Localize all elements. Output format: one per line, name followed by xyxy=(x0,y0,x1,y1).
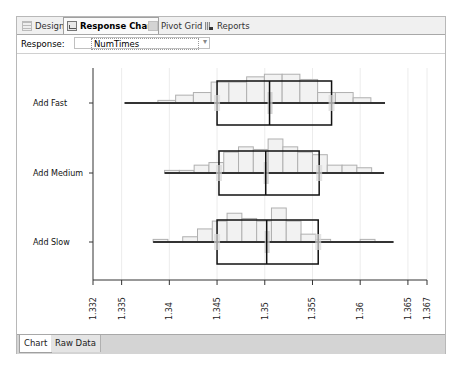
q3-marker xyxy=(329,95,335,111)
x-tick-label: 1.367 xyxy=(423,297,432,320)
histogram-bin xyxy=(298,152,313,173)
histogram-bin xyxy=(327,165,342,173)
q3-marker xyxy=(315,234,321,250)
histogram-bin xyxy=(335,93,353,103)
category-label: Add Fast xyxy=(33,99,67,108)
x-tick-label: 1.34 xyxy=(165,302,174,320)
histogram-bin xyxy=(271,208,286,242)
histogram-bin xyxy=(282,74,300,103)
category-label: Add Slow xyxy=(33,238,70,247)
histogram-bin xyxy=(194,165,209,173)
histogram-bin xyxy=(224,152,239,173)
histogram-bin xyxy=(286,221,301,242)
q1-marker xyxy=(214,234,220,250)
histogram-bin xyxy=(342,165,357,173)
histogram-bin xyxy=(176,95,194,103)
x-tick-label: 1.345 xyxy=(213,297,222,320)
histogram-bin xyxy=(301,234,316,242)
q3-marker xyxy=(316,165,322,181)
histogram-bin xyxy=(193,93,211,103)
category-label: Add Medium xyxy=(33,169,83,178)
category-labels: Add FastAdd MediumAdd Slow xyxy=(33,99,83,247)
histogram-bin xyxy=(197,229,212,242)
histogram-bin xyxy=(242,218,257,242)
x-tick-label: 1.355 xyxy=(308,297,317,320)
x-tick-label: 1.35 xyxy=(261,302,270,320)
q1-marker xyxy=(216,165,222,181)
histograms xyxy=(153,74,375,242)
x-tick-label: 1.365 xyxy=(404,297,413,320)
histogram-bin xyxy=(227,213,242,242)
x-tick-label: 1.332 xyxy=(89,297,98,320)
histogram-bin xyxy=(264,74,282,103)
histogram-bin xyxy=(229,82,247,103)
response-chart: Add FastAdd MediumAdd Slow 1.3321.3351.3… xyxy=(0,0,458,367)
q1-marker xyxy=(214,95,220,111)
x-tick-label: 1.335 xyxy=(118,297,127,320)
histogram-bin xyxy=(300,79,318,103)
x-tick-labels: 1.3321.3351.341.3451.351.3551.361.3651.3… xyxy=(89,297,432,320)
histogram-bin xyxy=(268,139,283,173)
x-tick-label: 1.36 xyxy=(356,302,365,320)
